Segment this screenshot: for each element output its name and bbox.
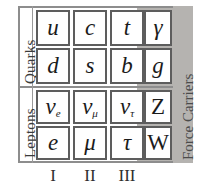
particle-symbol: ντ [120,95,134,118]
frame-rule-bottom [18,161,173,163]
particle-cell-charm[interactable]: c [73,10,107,46]
particle-cell-gluon[interactable]: g [144,48,172,84]
force-carriers-label: Force Carriers [180,74,197,160]
particle-symbol: u [47,16,59,39]
particle-symbol: g [152,54,164,77]
particle-symbol: μ [84,131,96,154]
particle-symbol: νμ [82,95,98,118]
particle-symbol: s [86,54,95,77]
particle-cell-bottom[interactable]: b [110,48,144,84]
particle-symbol: W [147,131,169,154]
particle-cell-w-boson[interactable]: W [144,126,172,160]
particle-cell-electron[interactable]: e [36,126,70,160]
generation-label-1: I [36,166,70,186]
particle-symbol: τ [123,131,131,154]
standard-model-table: Force Carriers Quarks Leptons u c t d s … [0,0,201,191]
particle-cell-tau[interactable]: τ [110,126,144,160]
particle-symbol: Z [151,95,165,118]
frame-rule-left [18,6,20,163]
particle-cell-photon[interactable]: γ [144,10,172,46]
particle-cell-strange[interactable]: s [73,48,107,84]
particle-cell-top[interactable]: t [110,10,144,46]
generation-label-3: III [110,166,144,186]
particle-cell-tau-neutrino[interactable]: ντ [110,90,144,124]
frame-rule-top [18,6,173,8]
particle-symbol: νe [45,95,60,118]
particle-cell-down[interactable]: d [36,48,70,84]
particle-symbol: e [48,131,58,154]
particle-symbol: t [124,16,130,39]
particle-cell-up[interactable]: u [36,10,70,46]
particle-symbol: c [85,16,95,39]
particle-symbol: b [121,54,133,77]
particle-cell-muon[interactable]: μ [73,126,107,160]
particle-cell-electron-neutrino[interactable]: νe [36,90,70,124]
frame-rule-middle [18,86,173,88]
particle-cell-muon-neutrino[interactable]: νμ [73,90,107,124]
generation-label-2: II [73,166,107,186]
particle-cell-z-boson[interactable]: Z [144,90,172,124]
particle-symbol: γ [153,16,162,39]
particle-symbol: d [47,54,59,77]
